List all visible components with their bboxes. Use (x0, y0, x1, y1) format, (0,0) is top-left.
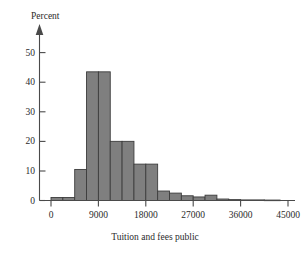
y-axis-title: Percent (31, 11, 60, 21)
chart-page: Percent 0 10 20 30 40 (0, 0, 308, 256)
y-tick-label-20: 20 (26, 136, 36, 146)
x-axis-title: Tuition and fees public (111, 232, 199, 242)
y-tick-label-10: 10 (26, 166, 36, 176)
x-axis-ticks (51, 201, 288, 207)
histogram-bars (51, 72, 280, 201)
y-tick-label-30: 30 (26, 107, 36, 117)
x-tick-label-0: 0 (49, 210, 54, 220)
histogram-bar (110, 141, 122, 200)
histogram-bar (146, 164, 158, 200)
x-tick-label-27000: 27000 (181, 210, 205, 220)
histogram-bar (134, 164, 146, 200)
y-tick-label-50: 50 (26, 48, 36, 58)
histogram-bar (98, 72, 110, 201)
y-tick-label-0: 0 (30, 196, 35, 206)
chart-svg: Percent 0 10 20 30 40 (0, 0, 308, 256)
y-axis-arrow-icon (36, 24, 44, 35)
x-axis-tick-labels: 0 9000 18000 27000 36000 45000 (49, 210, 301, 220)
x-tick-label-36000: 36000 (229, 210, 253, 220)
x-tick-label-9000: 9000 (89, 210, 108, 220)
histogram-bar (122, 141, 134, 200)
y-axis-tick-labels: 0 10 20 30 40 50 (26, 48, 36, 206)
x-tick-label-18000: 18000 (134, 210, 158, 220)
histogram-bar (181, 196, 193, 201)
histogram-chart: Percent 0 10 20 30 40 (0, 0, 308, 256)
x-tick-label-45000: 45000 (276, 210, 300, 220)
y-axis-ticks (40, 53, 46, 201)
histogram-bar (87, 72, 99, 201)
y-tick-label-40: 40 (26, 77, 36, 87)
histogram-bar (158, 191, 170, 200)
histogram-bar (75, 169, 87, 200)
histogram-bar (170, 193, 182, 200)
histogram-bar (205, 195, 217, 200)
